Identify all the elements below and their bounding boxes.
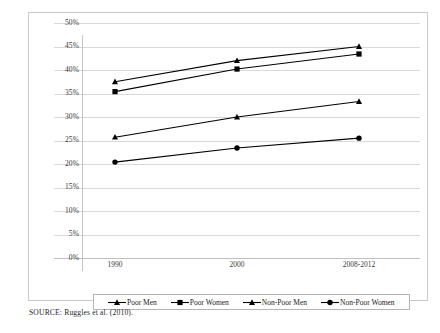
data-point-marker xyxy=(356,51,361,56)
data-series-layer xyxy=(29,13,429,302)
legend-item: Non-Poor Men xyxy=(243,298,307,307)
data-point-marker xyxy=(112,89,117,94)
legend-item: Poor Women xyxy=(171,298,229,307)
legend-item-label: Non-Poor Women xyxy=(340,298,394,307)
legend-marker-icon xyxy=(243,298,261,307)
chart-legend: Poor MenPoor WomenNon-Poor MenNon-Poor W… xyxy=(93,294,410,310)
legend-item: Non-Poor Women xyxy=(321,298,394,307)
data-point-marker xyxy=(112,159,117,164)
figure: 50%45%40%35%30%25%20%15%10%5%0% 19902000… xyxy=(0,0,440,333)
legend-item: Poor Men xyxy=(108,298,157,307)
data-point-marker xyxy=(356,98,362,104)
data-point-marker xyxy=(234,145,239,150)
legend-marker-icon xyxy=(108,298,126,307)
data-point-marker xyxy=(356,43,362,49)
series-non-poor-men xyxy=(112,98,362,139)
data-point-marker xyxy=(356,135,361,140)
legend-marker-icon xyxy=(321,298,339,307)
data-point-marker xyxy=(234,66,239,71)
chart-frame: 50%45%40%35%30%25%20%15%10%5%0% 19902000… xyxy=(28,12,428,301)
legend-item-label: Poor Men xyxy=(127,298,157,307)
legend-item-label: Non-Poor Men xyxy=(262,298,307,307)
series-poor-men xyxy=(112,43,362,84)
series-line xyxy=(115,47,359,82)
series-non-poor-women xyxy=(112,135,361,164)
legend-item-label: Poor Women xyxy=(190,298,229,307)
legend-marker-icon xyxy=(171,298,189,307)
source-note: SOURCE: Ruggles et al. (2010). xyxy=(29,308,133,317)
